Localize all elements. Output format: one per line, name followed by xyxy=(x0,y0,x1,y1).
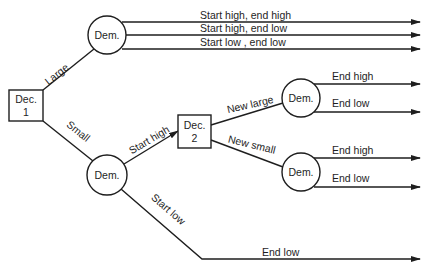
demand-node-top: Dem. xyxy=(88,16,126,54)
demand-node-new-small-label: Dem. xyxy=(288,166,313,178)
outcome-label-new-large-2: End low xyxy=(332,97,370,109)
outcome-label-new-small-1: End high xyxy=(332,144,374,156)
decision-node-1: Dec. 1 xyxy=(9,90,43,121)
outcome-label-large-2: Start high, end low xyxy=(200,22,287,34)
demand-node-new-small: Dem. xyxy=(282,153,320,191)
demand-node-small: Dem. xyxy=(87,155,127,195)
demand-node-new-large: Dem. xyxy=(282,79,320,117)
demand-node-small-label: Dem. xyxy=(94,169,119,181)
outcome-label-new-small-2: End low xyxy=(332,172,370,184)
decision-node-2: Dec. 2 xyxy=(178,115,211,148)
edge-label-start-low: Start low xyxy=(149,191,188,227)
edge-label-small: Small xyxy=(65,118,93,144)
edge-label-new-small: New small xyxy=(227,132,277,155)
outcome-label-large-1: Start high, end high xyxy=(200,9,291,21)
decision-node-1-label-line1: Dec. xyxy=(15,93,37,105)
edge-label-large: Large xyxy=(42,61,71,87)
demand-node-new-large-label: Dem. xyxy=(288,92,313,104)
decision-tree-diagram: Dec. 1 Dem. Dem. Dec. 2 Dem. Dem. Large … xyxy=(0,0,428,271)
decision-node-2-label-line1: Dec. xyxy=(184,119,206,131)
demand-node-top-label: Dem. xyxy=(94,29,119,41)
decision-node-1-label-line2: 1 xyxy=(23,106,29,118)
edge-label-new-large: New large xyxy=(226,93,275,115)
decision-node-2-label-line2: 2 xyxy=(192,132,198,144)
outcome-label-new-large-1: End high xyxy=(332,70,374,82)
outcome-label-start-low-1: End low xyxy=(262,246,300,258)
outcome-label-large-3: Start low , end low xyxy=(200,36,286,48)
